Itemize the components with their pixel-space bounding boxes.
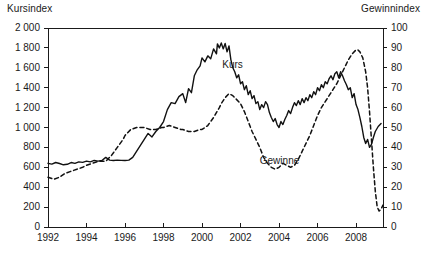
y2-axis-tick-label: 40 [391, 142, 402, 152]
x-axis-tick-label: 2000 [191, 233, 213, 243]
x-axis-tick-label: 2004 [268, 233, 290, 243]
y-axis-tick-label: 800 [0, 142, 40, 152]
left-axis-title: Kursindex [7, 3, 52, 14]
y-axis-tick-label: 0 [0, 222, 40, 232]
chart-container: Kursindex Gewinnindex 02004006008001 000… [0, 0, 426, 258]
y2-axis-tick-label: 30 [391, 162, 402, 172]
y2-axis-tick-label: 0 [391, 222, 397, 232]
x-axis-tick-label: 1998 [152, 233, 174, 243]
series-label-gewinne: Gewinne [260, 155, 299, 166]
y2-axis-tick-label: 50 [391, 123, 402, 133]
x-axis-tick-label: 1994 [75, 233, 97, 243]
y-axis-tick-label: 600 [0, 162, 40, 172]
right-axis-title: Gewinnindex [361, 3, 420, 14]
y-axis-tick-label: 1 600 [0, 63, 40, 73]
x-axis-tick-label: 2006 [306, 233, 328, 243]
y-axis-tick-label: 2 000 [0, 23, 40, 33]
y2-axis-tick-label: 90 [391, 43, 402, 53]
y2-axis-tick-label: 20 [391, 182, 402, 192]
y2-axis-tick-label: 80 [391, 63, 402, 73]
y-axis-tick-label: 1 200 [0, 103, 40, 113]
y-axis-tick-label: 1 400 [0, 83, 40, 93]
x-axis-tick-label: 1996 [114, 233, 136, 243]
y-axis-tick-label: 200 [0, 202, 40, 212]
y2-axis-tick-label: 70 [391, 83, 402, 93]
y2-axis-tick-label: 10 [391, 202, 402, 212]
x-axis-tick-label: 1992 [37, 233, 59, 243]
y-axis-tick-label: 1 000 [0, 123, 40, 133]
x-axis-tick-label: 2008 [345, 233, 367, 243]
series-line-gewinne [48, 50, 383, 211]
y2-axis-tick-label: 60 [391, 103, 402, 113]
y-axis-tick-label: 1 800 [0, 43, 40, 53]
y2-axis-tick-label: 100 [391, 23, 408, 33]
y-axis-tick-label: 400 [0, 182, 40, 192]
series-label-kurs: Kurs [222, 59, 243, 70]
series-line-kurs [48, 43, 381, 165]
x-axis-tick-label: 2002 [229, 233, 251, 243]
chart-plot-area [0, 0, 426, 258]
